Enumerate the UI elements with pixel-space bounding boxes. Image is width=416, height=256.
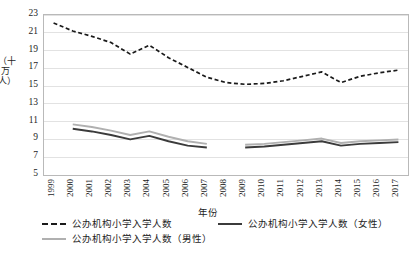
y-axis-tick-label: 11: [8, 116, 38, 126]
male-line-swatch-icon: [42, 234, 66, 244]
y-axis-tick-label: 15: [8, 80, 38, 90]
chart-legend: 公办机构小学入学人数 公办机构小学入学人数（女性） 公办机构小学入学人数（男性）: [42, 216, 416, 246]
y-axis-tick-label: 13: [8, 98, 38, 108]
x-axis-tick-label: 2012: [296, 179, 308, 197]
x-axis-tick-label: 2006: [181, 179, 193, 197]
line-chart: （十万人） 57911131517192123 1999200020012002…: [0, 0, 416, 256]
x-axis-tick-label: 2010: [257, 179, 269, 197]
series-line-2: [73, 124, 207, 144]
y-axis-tick-label: 17: [8, 62, 38, 72]
y-axis-tick-label: 23: [8, 9, 38, 19]
x-axis-tick-label: 2013: [315, 179, 327, 197]
legend-label-total: 公办机构小学入学人数: [72, 218, 172, 230]
x-axis-tick-label: 2014: [334, 179, 346, 197]
series-line-1: [73, 129, 207, 148]
x-axis-tick-label: 2005: [162, 179, 174, 197]
legend-item-total[interactable]: 公办机构小学入学人数: [42, 218, 218, 230]
plot-area: [43, 14, 409, 176]
x-axis-tick-label: 2000: [66, 179, 78, 197]
x-axis-tick-label: 2008: [219, 179, 231, 197]
y-axis-tick-label: 5: [8, 169, 38, 179]
y-axis-tick-label: 9: [8, 133, 38, 143]
x-axis-tick-label: 2002: [104, 179, 116, 197]
y-axis-tick-label: 7: [8, 151, 38, 161]
x-axis-tick-label: 2011: [276, 179, 288, 197]
x-axis-tick-label: 2009: [238, 179, 250, 197]
y-axis-tick-label: 21: [8, 27, 38, 37]
y-axis-tick-label: 19: [8, 45, 38, 55]
legend-label-female: 公办机构小学入学人数（女性）: [248, 218, 388, 230]
dashed-line-swatch-icon: [42, 219, 66, 229]
x-axis-tick-label: 2017: [391, 179, 403, 197]
x-axis-tick-label: 1999: [47, 179, 59, 197]
x-axis-tick-label: 2007: [200, 179, 212, 197]
x-axis-tick-label: 2003: [123, 179, 135, 197]
x-axis-tick-label: 2015: [353, 179, 365, 197]
x-axis-tick-label: 2001: [85, 179, 97, 197]
female-line-swatch-icon: [218, 219, 242, 229]
legend-item-female[interactable]: 公办机构小学入学人数（女性）: [218, 218, 388, 230]
legend-label-male: 公办机构小学入学人数（男性）: [72, 233, 212, 245]
series-lines: [44, 15, 408, 175]
x-axis-tick-label: 2016: [372, 179, 384, 197]
series-line-0: [54, 23, 399, 84]
x-axis-tick-label: 2004: [142, 179, 154, 197]
legend-item-male[interactable]: 公办机构小学入学人数（男性）: [42, 233, 218, 245]
